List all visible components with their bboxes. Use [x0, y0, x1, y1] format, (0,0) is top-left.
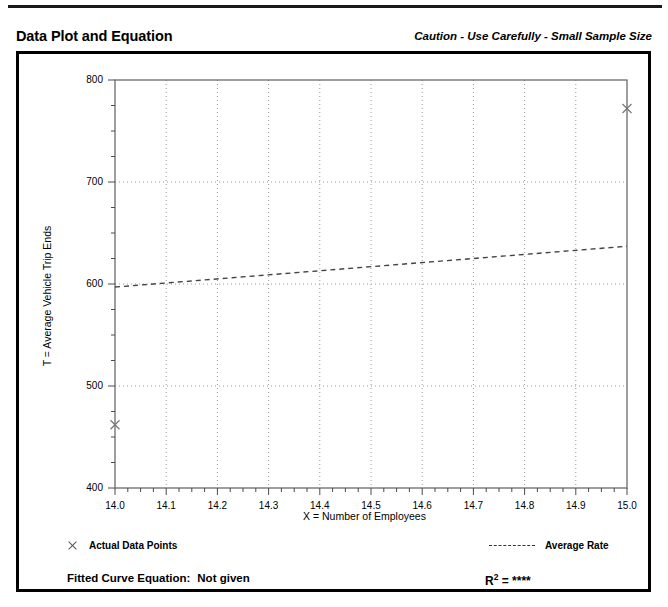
y-tick-label: 400 — [69, 482, 103, 493]
x-tick-label: 14.9 — [556, 500, 596, 511]
r-squared-value: R2 = **** — [485, 572, 531, 588]
equation-label: Fitted Curve Equation: — [67, 572, 190, 584]
page-header: Data Plot and Equation Caution - Use Car… — [16, 28, 652, 48]
legend-item-actual-points: Actual Data Points — [67, 540, 177, 551]
legend-label-average-rate: Average Rate — [545, 540, 609, 551]
chart-panel: T = Average Vehicle Trip Ends X = Number… — [16, 51, 651, 592]
dashed-line-icon — [489, 545, 535, 546]
x-marker-icon — [67, 540, 78, 551]
x-tick-label: 14.6 — [402, 500, 442, 511]
x-tick-label: 14.4 — [300, 500, 340, 511]
y-tick-label: 500 — [69, 380, 103, 391]
equation-value: Not given — [197, 572, 249, 584]
x-tick-label: 14.0 — [95, 500, 135, 511]
x-tick-label: 14.8 — [505, 500, 545, 511]
x-tick-label: 14.2 — [197, 500, 237, 511]
y-tick-label: 700 — [69, 176, 103, 187]
equation-row: Fitted Curve Equation:Not given R2 = ***… — [19, 572, 654, 596]
x-tick-label: 15.0 — [607, 500, 647, 511]
document-page: Data Plot and Equation Caution - Use Car… — [0, 0, 668, 607]
x-axis-title-text: X = Number of Employees — [303, 510, 426, 522]
x-tick-label: 14.1 — [146, 500, 186, 511]
x-tick-label: 14.3 — [249, 500, 289, 511]
r-squared-equals: = — [498, 574, 512, 588]
fitted-curve-equation: Fitted Curve Equation:Not given — [67, 572, 250, 584]
legend-label-actual-points: Actual Data Points — [89, 540, 177, 551]
chart-legend: Actual Data Points Average Rate — [19, 540, 654, 566]
caution-note: Caution - Use Carefully - Small Sample S… — [414, 30, 652, 42]
r-squared-number: **** — [512, 574, 531, 588]
x-axis-title: X = Number of Employees — [19, 510, 654, 522]
y-tick-label: 600 — [69, 278, 103, 289]
legend-item-average-rate: Average Rate — [489, 540, 609, 551]
page-title: Data Plot and Equation — [16, 28, 173, 44]
chart-area: T = Average Vehicle Trip Ends X = Number… — [19, 54, 654, 595]
x-tick-label: 14.7 — [453, 500, 493, 511]
top-divider-rule — [8, 5, 662, 8]
y-axis-title: T = Average Vehicle Trip Ends — [41, 206, 53, 386]
x-tick-label: 14.5 — [351, 500, 391, 511]
r-squared-prefix: R — [485, 574, 494, 588]
y-tick-label: 800 — [69, 74, 103, 85]
